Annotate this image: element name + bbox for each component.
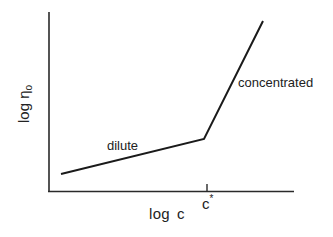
dilute-label: dilute <box>107 139 138 152</box>
cstar-superscript: * <box>210 193 214 204</box>
y-axis-label-text: log η <box>15 91 32 124</box>
diagram-canvas <box>0 0 333 237</box>
concentrated-label: concentrated <box>238 76 313 89</box>
x-axis-label-word: log <box>149 205 170 222</box>
x-axis-label: logc <box>149 206 185 221</box>
x-axis-label-var: c <box>177 205 185 222</box>
cstar-base: c <box>202 195 210 212</box>
y-axis-label: log ηo <box>16 85 34 123</box>
cstar-label: c* <box>202 196 213 211</box>
viscosity-curve <box>61 21 263 174</box>
y-axis-label-subscript: o <box>23 85 34 91</box>
